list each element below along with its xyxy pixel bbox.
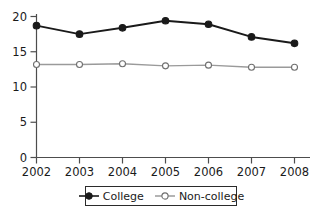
data-point-non-college-2006[interactable] [206,62,212,68]
filled-circle-marker-icon [78,191,100,201]
legend-entry-college[interactable]: College [78,191,144,202]
chart-legend: College Non-college [85,186,237,206]
data-point-college-2008[interactable] [291,40,298,47]
x-tick-label-2003: 2003 [65,165,94,179]
legend-label-college: College [103,191,144,202]
x-tick-label-2007: 2007 [237,165,266,179]
data-point-non-college-2005[interactable] [163,63,169,69]
data-point-college-2002[interactable] [33,22,40,29]
x-tick-label-2004: 2004 [108,165,137,179]
open-circle-marker-icon [154,191,176,201]
y-tick-label-20: 20 [12,10,27,24]
line-chart: 0 5 10 15 20 2002 2003 2004 2005 2006 20… [0,0,323,218]
y-tick-label-15: 15 [12,45,27,59]
y-tick-label-5: 5 [20,115,27,129]
data-point-college-2003[interactable] [76,31,83,38]
x-tick-label-2006: 2006 [194,165,223,179]
y-tick-label-10: 10 [12,80,27,94]
data-point-college-2004[interactable] [119,24,126,31]
x-tick-label-2002: 2002 [22,165,51,179]
y-tick-label-0: 0 [20,151,27,165]
series-non-college [34,61,298,71]
x-axis-ticks [37,158,295,164]
data-point-non-college-2002[interactable] [34,61,40,67]
data-point-non-college-2008[interactable] [292,64,298,70]
y-axis-ticks [31,17,37,158]
data-point-non-college-2007[interactable] [249,64,255,70]
x-tick-label-2005: 2005 [151,165,180,179]
data-point-non-college-2004[interactable] [120,61,126,67]
data-point-college-2005[interactable] [162,17,169,24]
data-point-college-2006[interactable] [205,21,212,28]
data-point-non-college-2003[interactable] [77,61,83,67]
x-tick-label-2008: 2008 [280,165,309,179]
legend-entry-non-college[interactable]: Non-college [154,191,244,202]
legend-label-non-college: Non-college [179,191,244,202]
series-college [33,17,298,46]
data-point-college-2007[interactable] [248,34,255,41]
